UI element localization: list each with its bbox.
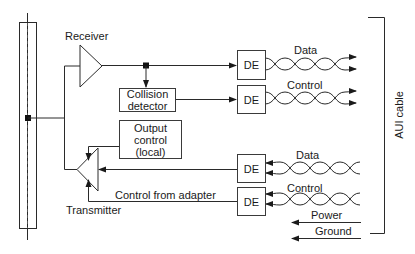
de-block-data-out: DE (237, 50, 266, 80)
data-in-label: Data (296, 149, 319, 161)
diagram-canvas (0, 0, 415, 254)
aui-cable-bracket (368, 18, 385, 234)
transmitter-label: Transmitter (66, 204, 121, 216)
receiver-triangle (80, 45, 102, 87)
transmitter-triangle (77, 148, 98, 191)
data-out-label: Data (294, 44, 317, 56)
de-block-control-in: DE (237, 187, 266, 216)
aui-cable-label: AUI cable (393, 88, 405, 142)
collision-detector-line2: detector (128, 100, 168, 112)
twisted-pair-control-out (265, 91, 356, 104)
output-control-line1: Output (134, 122, 167, 134)
output-control-line3: (local) (136, 146, 166, 158)
twisted-pair-data-in (266, 162, 360, 174)
coax-bus (20, 13, 37, 240)
receiver-label: Receiver (65, 30, 108, 42)
de-block-data-in: DE (237, 154, 266, 183)
output-control-box: Output control (local) (119, 120, 182, 159)
collision-detector-box: Collision detector (119, 88, 176, 112)
control-out-label: Control (287, 79, 322, 91)
control-from-adapter-label: Control from adapter (115, 189, 216, 201)
twisted-pair-data-out (265, 57, 356, 70)
output-control-line2: control (134, 134, 167, 146)
ground-label: Ground (315, 225, 352, 237)
de-block-control-out: DE (237, 85, 266, 114)
twisted-pair-control-in (266, 193, 360, 205)
collision-detector-line1: Collision (127, 88, 169, 100)
power-label: Power (311, 209, 342, 221)
control-in-label: Control (287, 182, 322, 194)
